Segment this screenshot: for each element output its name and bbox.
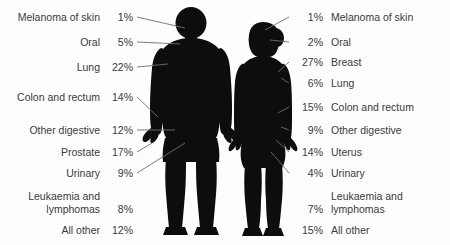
female-label-uterus: Uterus bbox=[331, 146, 362, 158]
leader-female-other-digestive bbox=[281, 127, 289, 130]
female-row-melanoma-of-skin: 1% Melanoma of skin bbox=[297, 11, 413, 23]
female-pct-breast: 27% bbox=[297, 56, 323, 68]
female-pct-lung: 6% bbox=[297, 77, 323, 89]
female-silhouette bbox=[229, 22, 298, 236]
female-pct-urinary: 4% bbox=[297, 167, 323, 179]
male-label-leukaemia-and-lymphomas: Leukaemia and lymphomas bbox=[8, 190, 100, 215]
female-row-uterus: 14% Uterus bbox=[297, 146, 362, 158]
female-row-oral: 2% Oral bbox=[297, 36, 351, 48]
male-pct-urinary: 9% bbox=[107, 167, 133, 179]
female-row-colon-and-rectum: 15% Colon and rectum bbox=[297, 101, 414, 113]
female-row-all-other: 15% All other bbox=[297, 224, 370, 236]
female-row-urinary: 4% Urinary bbox=[297, 167, 365, 179]
female-pct-colon-and-rectum: 15% bbox=[297, 101, 323, 113]
male-label-urinary: Urinary bbox=[66, 167, 100, 179]
leader-female-breast bbox=[278, 62, 289, 72]
male-label-other-digestive: Other digestive bbox=[29, 124, 100, 136]
male-row-melanoma-of-skin: Melanoma of skin 1% bbox=[18, 11, 133, 23]
female-row-breast: 27% Breast bbox=[297, 56, 361, 68]
male-row-prostate: Prostate 17% bbox=[61, 146, 133, 158]
male-row-lung: Lung 22% bbox=[77, 61, 133, 73]
male-label-all-other: All other bbox=[61, 224, 100, 236]
leader-female-melanoma-of-skin bbox=[265, 17, 289, 30]
female-row-other-digestive: 9% Other digestive bbox=[297, 124, 402, 136]
female-row-leukaemia-and-lymphomas: 7% Leukaemia and lymphomas bbox=[297, 190, 423, 215]
leader-male-melanoma-of-skin bbox=[137, 17, 185, 28]
male-label-colon-and-rectum: Colon and rectum bbox=[17, 91, 100, 103]
male-label-melanoma-of-skin: Melanoma of skin bbox=[18, 11, 100, 23]
male-pct-melanoma-of-skin: 1% bbox=[107, 11, 133, 23]
leader-female-uterus bbox=[276, 140, 289, 152]
female-label-leukaemia-and-lymphomas: Leukaemia and lymphomas bbox=[331, 190, 423, 215]
male-pct-lung: 22% bbox=[107, 61, 133, 73]
female-label-breast: Breast bbox=[331, 56, 361, 68]
male-pct-other-digestive: 12% bbox=[107, 124, 133, 136]
male-pct-oral: 5% bbox=[107, 36, 133, 48]
leader-female-urinary bbox=[271, 152, 289, 173]
male-row-leukaemia-and-lymphomas: Leukaemia and lymphomas 8% bbox=[8, 190, 133, 215]
leader-female-oral bbox=[270, 40, 289, 42]
female-row-lung: 6% Lung bbox=[297, 77, 354, 89]
cancer-incidence-diagram: Melanoma of skin 1% Oral 5% Lung 22% Col… bbox=[0, 0, 450, 245]
male-row-colon-and-rectum: Colon and rectum 14% bbox=[17, 91, 133, 103]
female-pct-oral: 2% bbox=[297, 36, 323, 48]
leader-male-lung bbox=[137, 64, 168, 67]
female-pct-all-other: 15% bbox=[297, 224, 323, 236]
leader-male-oral bbox=[137, 42, 180, 44]
male-label-lung: Lung bbox=[77, 61, 100, 73]
leader-female-lung bbox=[281, 78, 289, 83]
leader-female-colon-and-rectum bbox=[278, 107, 289, 113]
female-pct-leukaemia-and-lymphomas: 7% bbox=[297, 203, 323, 216]
leader-male-prostate bbox=[137, 143, 152, 152]
male-pct-colon-and-rectum: 14% bbox=[107, 91, 133, 103]
male-label-prostate: Prostate bbox=[61, 146, 100, 158]
male-label-oral: Oral bbox=[80, 36, 100, 48]
male-silhouette bbox=[143, 7, 240, 235]
female-label-other-digestive: Other digestive bbox=[331, 124, 402, 136]
female-label-oral: Oral bbox=[331, 36, 351, 48]
female-label-colon-and-rectum: Colon and rectum bbox=[331, 101, 414, 113]
female-pct-other-digestive: 9% bbox=[297, 124, 323, 136]
male-pct-leukaemia-and-lymphomas: 8% bbox=[107, 203, 133, 216]
male-row-other-digestive: Other digestive 12% bbox=[29, 124, 133, 136]
female-label-lung: Lung bbox=[331, 77, 354, 89]
female-label-urinary: Urinary bbox=[331, 167, 365, 179]
male-pct-prostate: 17% bbox=[107, 146, 133, 158]
male-row-all-other: All other 12% bbox=[61, 224, 133, 236]
male-row-oral: Oral 5% bbox=[80, 36, 133, 48]
female-pct-uterus: 14% bbox=[297, 146, 323, 158]
female-pct-melanoma-of-skin: 1% bbox=[297, 11, 323, 23]
leader-male-colon-and-rectum bbox=[137, 97, 158, 117]
leader-male-urinary bbox=[137, 143, 185, 173]
male-pct-all-other: 12% bbox=[107, 224, 133, 236]
male-row-urinary: Urinary 9% bbox=[66, 167, 133, 179]
female-label-all-other: All other bbox=[331, 224, 370, 236]
female-label-melanoma-of-skin: Melanoma of skin bbox=[331, 11, 413, 23]
